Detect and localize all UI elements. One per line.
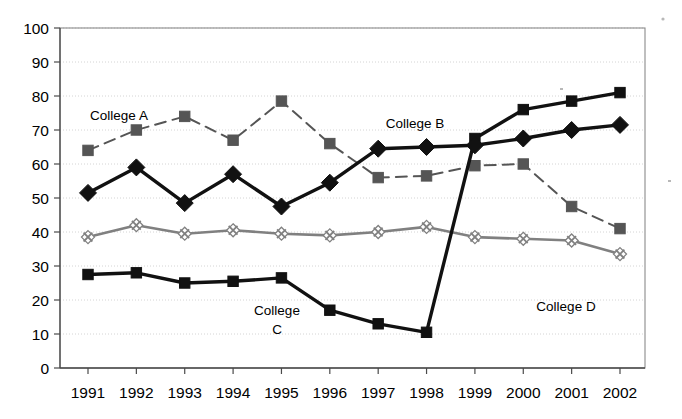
x-tick-label: 1997 <box>361 384 395 401</box>
data-point-square <box>83 145 93 155</box>
annotation-college-b: College B <box>386 116 445 131</box>
data-point-square <box>373 319 383 329</box>
y-tick-label: 50 <box>32 190 50 207</box>
x-tick-label: 1996 <box>313 384 347 401</box>
data-point-square <box>325 305 335 315</box>
x-tick-label: 1991 <box>71 384 105 401</box>
y-axis-labels: 0102030405060708090100 <box>23 20 49 377</box>
x-tick-label: 1993 <box>167 384 201 401</box>
x-tick-label: 1995 <box>264 384 298 401</box>
data-point-x-cross <box>275 227 288 240</box>
chart-canvas: 0102030405060708090100 19911992199319941… <box>0 0 682 419</box>
data-point-square <box>83 269 93 279</box>
data-point-diamond <box>466 137 483 154</box>
data-point-square <box>228 135 238 145</box>
x-tick-label: 2001 <box>554 384 588 401</box>
annotation-college-c-line2: C <box>272 322 282 337</box>
data-point-x-cross <box>372 226 385 239</box>
y-tick-label: 80 <box>32 88 50 105</box>
x-axis-labels: 1991199219931994199519961997199819992000… <box>71 384 637 401</box>
y-tick-label: 70 <box>32 122 50 139</box>
annotation-college-a: College A <box>90 108 148 123</box>
data-point-square <box>180 111 190 121</box>
data-point-x-cross <box>420 220 433 233</box>
data-point-square <box>421 171 431 181</box>
data-point-square <box>615 87 625 97</box>
data-point-x-cross <box>227 224 240 237</box>
data-point-square <box>470 161 480 171</box>
data-point-diamond <box>418 139 435 156</box>
y-tick-label: 40 <box>32 224 50 241</box>
data-point-x-cross <box>178 227 191 240</box>
data-point-square <box>518 104 528 114</box>
data-point-square <box>228 276 238 286</box>
data-point-square <box>180 278 190 288</box>
data-point-square <box>421 327 431 337</box>
x-tick-label: 1998 <box>409 384 443 401</box>
data-point-square <box>566 96 576 106</box>
data-point-diamond <box>563 122 580 139</box>
series-line <box>88 225 620 254</box>
annotation-college-c-line1: College <box>254 303 300 318</box>
series-line <box>88 125 620 207</box>
line-chart: 0102030405060708090100 19911992199319941… <box>0 0 682 419</box>
data-point-diamond <box>80 184 97 201</box>
series-college-b <box>80 116 629 215</box>
x-tick-label: 1999 <box>458 384 492 401</box>
y-tick-label: 0 <box>40 360 49 377</box>
y-tick-label: 60 <box>32 156 50 173</box>
data-point-square <box>325 138 335 148</box>
data-point-x-cross <box>323 229 336 242</box>
scan-speck <box>560 88 563 90</box>
scan-speck <box>661 17 664 20</box>
y-tick-label: 10 <box>32 326 50 343</box>
y-tick-label: 90 <box>32 54 50 71</box>
data-point-square <box>518 159 528 169</box>
data-point-square <box>566 201 576 211</box>
data-point-x-cross <box>565 234 578 247</box>
x-tick-label: 2002 <box>603 384 637 401</box>
gridlines <box>60 28 645 334</box>
data-point-x-cross <box>82 231 95 244</box>
data-point-square <box>131 125 141 135</box>
data-point-square <box>276 96 286 106</box>
series-line <box>88 93 620 333</box>
data-point-x-cross <box>130 219 143 232</box>
data-point-diamond <box>612 116 629 133</box>
x-tick-label: 1992 <box>119 384 153 401</box>
annotation-college-d: College D <box>536 299 596 314</box>
y-tick-label: 20 <box>32 292 50 309</box>
data-point-diamond <box>515 130 532 147</box>
x-tick-label: 2000 <box>506 384 541 401</box>
x-tick-marks <box>88 368 620 374</box>
series-college-d <box>82 219 627 261</box>
y-tick-marks <box>54 28 60 368</box>
x-tick-label: 1994 <box>216 384 251 401</box>
y-tick-label: 100 <box>23 20 49 37</box>
data-point-square <box>131 268 141 278</box>
data-point-x-cross <box>517 232 530 245</box>
data-point-square <box>373 172 383 182</box>
data-point-x-cross <box>614 248 627 261</box>
data-point-x-cross <box>468 231 481 244</box>
data-point-square <box>276 273 286 283</box>
scan-speck <box>668 180 671 182</box>
y-tick-label: 30 <box>32 258 50 275</box>
data-point-square <box>615 223 625 233</box>
